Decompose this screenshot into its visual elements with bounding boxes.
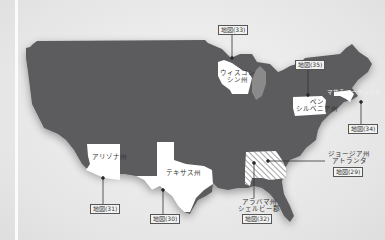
map-ref-wisconsin: 地図(33): [218, 25, 248, 35]
map-ref-text: 地図(32): [245, 215, 269, 222]
label-alabama: アラバマ州 シェルビー郡: [238, 199, 280, 214]
label-line: マサチューセッツ州: [327, 89, 381, 95]
label-wisconsin: ウィスコン シン州: [220, 70, 255, 85]
map-ref-alabama: 地図(32): [242, 214, 272, 224]
map-ref-texas: 地図(30): [150, 214, 180, 224]
map-ref-georgia: 地図(29): [333, 167, 363, 177]
label-line: アリゾナ州: [92, 154, 127, 161]
label-line: アトランタ: [328, 158, 370, 165]
label-pennsylvania: ペン シルベニア州: [296, 99, 338, 114]
label-arizona: アリゾナ州: [92, 154, 127, 161]
map-ref-pennsylvania: 地図(35): [295, 60, 325, 70]
us-map: [0, 0, 385, 240]
map-ref-text: 地図(29): [336, 168, 360, 175]
label-line: シルベニア州: [296, 106, 338, 113]
map-ref-text: 地図(35): [298, 61, 322, 68]
map-ref-text: 地図(33): [221, 26, 245, 33]
map-ref-arizona: 地図(31): [90, 204, 120, 214]
map-ref-text: 地図(30): [153, 215, 177, 222]
label-line: シン州: [220, 77, 255, 84]
map-ref-massachusetts: 地図(34): [348, 124, 378, 134]
label-line: テキサス州: [166, 170, 201, 177]
label-georgia: ジョージア州 アトランタ: [328, 151, 370, 166]
label-line: シェルビー郡: [238, 206, 280, 213]
map-ref-text: 地図(34): [351, 125, 375, 132]
map-ref-text: 地図(31): [93, 205, 117, 212]
state-arizona: [86, 144, 120, 180]
label-massachusetts: マサチューセッツ州: [327, 89, 381, 95]
label-texas: テキサス州: [166, 170, 201, 177]
